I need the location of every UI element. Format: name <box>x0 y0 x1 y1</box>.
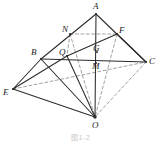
dashed-edge-C-O <box>95 62 146 117</box>
vertex-dot-E <box>12 88 14 90</box>
vertex-dot-A <box>95 13 97 15</box>
solid-edge-Q-O <box>67 56 95 117</box>
vertex-label-E: E <box>3 88 9 97</box>
solid-edge-Q-F <box>67 34 117 56</box>
vertex-dot-F <box>116 33 118 35</box>
dashed-edge-N-O <box>70 34 95 117</box>
solid-edge-E-O <box>13 89 95 117</box>
solid-edge-A-B <box>41 14 96 59</box>
vertex-label-N: N <box>62 25 68 34</box>
geometry-figure <box>0 0 161 146</box>
figure-caption: 图1-2 <box>0 132 161 142</box>
vertex-label-B: B <box>31 48 37 57</box>
vertex-dot-B <box>40 58 42 60</box>
solid-edge-F-C <box>117 34 146 62</box>
vertex-label-C: C <box>149 57 155 66</box>
vertex-dot-N <box>69 33 71 35</box>
vertex-label-F: F <box>119 26 125 35</box>
vertex-dot-Q <box>66 55 68 57</box>
solid-edge-E-Q <box>13 56 67 89</box>
vertex-dot-C <box>145 61 147 63</box>
vertex-label-O: O <box>92 121 99 130</box>
vertex-dot-O <box>93 115 96 118</box>
vertex-label-M: M <box>92 62 100 71</box>
vertex-label-Q: Q <box>59 48 66 57</box>
vertex-label-A: A <box>93 2 99 11</box>
vertex-label-G: G <box>93 44 100 53</box>
